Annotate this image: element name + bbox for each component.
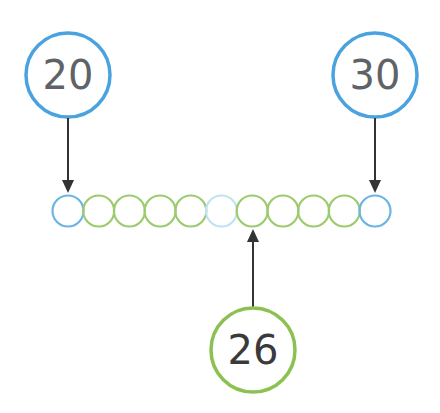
bead-21	[83, 196, 114, 227]
arrowhead-end-icon	[369, 180, 381, 193]
arrowhead-start-icon	[62, 180, 74, 193]
number-line-diagram: 20 30 26	[0, 0, 440, 413]
bead-27	[267, 196, 298, 227]
bead-29	[329, 196, 360, 227]
bead-row	[53, 196, 391, 227]
bead-23	[145, 196, 176, 227]
arrowhead-marker-icon	[247, 229, 259, 242]
bead-26	[237, 196, 268, 227]
start-value-circle: 20	[26, 33, 110, 117]
bead-24	[175, 196, 206, 227]
marker-value-circle: 26	[211, 308, 295, 392]
bead-22	[114, 196, 145, 227]
bead-28	[298, 196, 329, 227]
bead-20	[53, 196, 84, 227]
end-value-circle: 30	[333, 33, 417, 117]
bead-30	[360, 196, 391, 227]
start-value-label: 20	[43, 52, 94, 98]
bead-25	[206, 196, 237, 227]
end-value-label: 30	[350, 52, 401, 98]
marker-value-label: 26	[228, 327, 279, 373]
